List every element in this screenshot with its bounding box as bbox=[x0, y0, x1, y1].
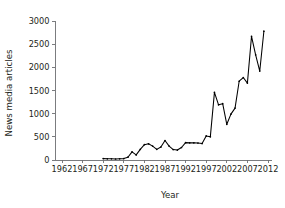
data-point bbox=[172, 149, 174, 151]
y-axis-title: News media articles bbox=[4, 49, 14, 136]
chart-canvas: 050010001500200025003000 196219671972197… bbox=[0, 0, 285, 208]
y-tick-label: 500 bbox=[34, 132, 50, 142]
data-point bbox=[201, 143, 203, 145]
data-series-news-media-articles bbox=[102, 30, 264, 159]
data-point bbox=[135, 154, 137, 156]
x-tick-label: 1962 bbox=[52, 164, 73, 174]
data-point bbox=[152, 145, 154, 147]
x-tick-label: 2012 bbox=[258, 164, 279, 174]
x-tick-label: 1977 bbox=[113, 164, 134, 174]
x-tick-label: 1992 bbox=[175, 164, 196, 174]
x-tick-label: 1997 bbox=[196, 164, 217, 174]
y-tick-label: 1000 bbox=[29, 109, 50, 119]
x-axis-title: Year bbox=[160, 190, 180, 200]
data-point bbox=[222, 103, 224, 105]
data-point bbox=[259, 70, 261, 72]
data-point bbox=[218, 104, 220, 106]
data-point bbox=[230, 113, 232, 115]
x-tick-label: 1987 bbox=[155, 164, 176, 174]
data-point bbox=[197, 142, 199, 144]
data-point bbox=[234, 107, 236, 109]
y-tick-label: 3000 bbox=[29, 16, 50, 26]
x-tick-label: 1982 bbox=[134, 164, 155, 174]
x-tick-label: 2002 bbox=[216, 164, 237, 174]
x-tick-label: 1972 bbox=[93, 164, 114, 174]
data-point bbox=[156, 148, 158, 150]
data-point bbox=[255, 54, 257, 56]
data-point bbox=[148, 143, 150, 145]
data-point bbox=[181, 147, 183, 149]
x-tick-label: 2007 bbox=[237, 164, 258, 174]
y-tick-label: 1500 bbox=[29, 86, 50, 96]
data-point bbox=[226, 123, 228, 125]
data-point bbox=[102, 158, 104, 160]
y-tick-label: 2500 bbox=[29, 39, 50, 49]
data-point bbox=[189, 142, 191, 144]
data-point bbox=[242, 77, 244, 79]
data-point bbox=[209, 136, 211, 138]
y-axis: 050010001500200025003000 bbox=[29, 16, 55, 165]
data-point bbox=[139, 148, 141, 150]
y-tick-label: 0 bbox=[44, 155, 49, 165]
data-line bbox=[103, 31, 264, 159]
data-point bbox=[164, 140, 166, 142]
data-point bbox=[193, 142, 195, 144]
data-point bbox=[168, 145, 170, 147]
y-tick-label: 2000 bbox=[29, 62, 50, 72]
data-point bbox=[214, 92, 216, 94]
data-point bbox=[185, 142, 187, 144]
data-point bbox=[106, 158, 108, 160]
data-point bbox=[131, 151, 133, 153]
data-point bbox=[144, 144, 146, 146]
data-point bbox=[115, 158, 117, 160]
data-point bbox=[238, 80, 240, 82]
data-point bbox=[119, 158, 121, 160]
data-point bbox=[263, 30, 265, 32]
x-tick-label: 1967 bbox=[72, 164, 93, 174]
data-point bbox=[205, 135, 207, 137]
data-point bbox=[123, 158, 125, 160]
line-chart-figure: 050010001500200025003000 196219671972197… bbox=[0, 0, 285, 208]
data-point bbox=[111, 158, 113, 160]
data-point bbox=[251, 35, 253, 37]
data-point bbox=[177, 149, 179, 151]
x-axis: 1962196719721977198219871992199720022007… bbox=[52, 160, 279, 174]
data-point bbox=[160, 146, 162, 148]
data-point bbox=[247, 82, 249, 84]
data-point bbox=[127, 156, 129, 158]
